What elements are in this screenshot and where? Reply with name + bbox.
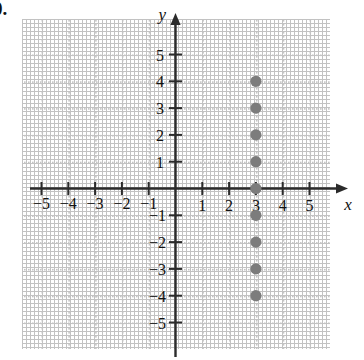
x-tick-label: −3 [87, 195, 104, 212]
y-axis-label: y [156, 5, 166, 24]
x-tick-label: −2 [113, 195, 130, 212]
data-point [250, 103, 261, 114]
x-tick-label: 2 [225, 197, 233, 214]
x-axis-label: x [343, 195, 352, 214]
y-tick-label: 4 [156, 73, 164, 90]
data-point [250, 210, 261, 221]
graph-svg: −5 −4 −3 −2 −1 1 2 3 4 5 5 4 3 2 1 −1 −2… [0, 0, 364, 360]
y-tick-label: −2 [149, 234, 166, 251]
coordinate-plane: −5 −4 −3 −2 −1 1 2 3 4 5 5 4 3 2 1 −1 −2… [0, 0, 364, 360]
x-tick-label: −5 [33, 195, 50, 212]
y-tick-label: −5 [149, 315, 166, 332]
y-tick-label: 3 [156, 100, 164, 117]
data-points [250, 76, 261, 302]
y-tick-label: 1 [156, 154, 164, 171]
x-axis-arrow [336, 183, 348, 193]
x-tick-labels: −5 −4 −3 −2 −1 1 2 3 4 5 [33, 195, 314, 214]
data-point [250, 290, 261, 301]
data-point [250, 183, 261, 194]
data-point [250, 76, 261, 87]
x-tick-label: 1 [198, 197, 206, 214]
data-point [250, 263, 261, 274]
x-tick-label: 4 [279, 197, 287, 214]
y-tick-label: −3 [149, 261, 166, 278]
y-tick-label: 2 [156, 127, 164, 144]
data-point [250, 237, 261, 248]
y-axis-arrow [170, 13, 180, 25]
axes [30, 13, 348, 357]
x-tick-label: 5 [306, 197, 314, 214]
data-point [250, 156, 261, 167]
y-tick-label: −1 [149, 207, 166, 224]
y-tick-label: −4 [149, 288, 166, 305]
x-tick-label: −4 [60, 195, 77, 212]
y-tick-label: 5 [156, 47, 164, 64]
data-point [250, 129, 261, 140]
